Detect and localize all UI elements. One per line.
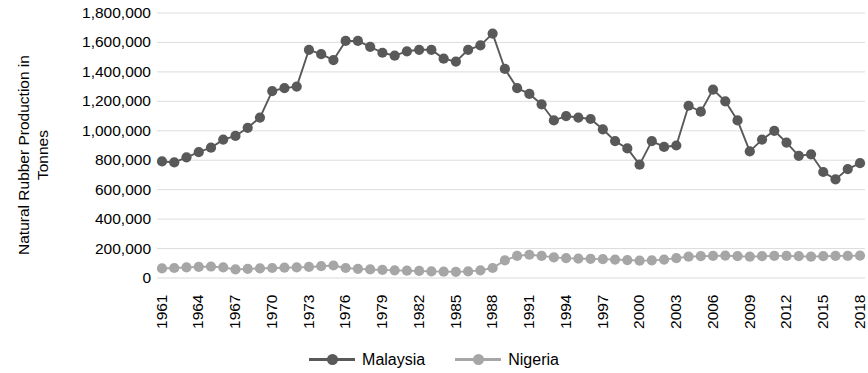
legend-marker-icon (455, 352, 501, 368)
y-axis-tick-label: 200,000 (44, 241, 151, 257)
data-point (243, 264, 253, 274)
data-point (843, 164, 853, 174)
data-point (622, 143, 632, 153)
data-point (169, 263, 179, 273)
legend-dot-icon (327, 354, 338, 365)
data-point (647, 255, 657, 265)
legend-marker-icon (309, 352, 355, 368)
data-point (488, 263, 498, 273)
legend-item-nigeria[interactable]: Nigeria (455, 352, 559, 368)
data-point (634, 160, 644, 170)
data-point (304, 45, 314, 55)
data-point (414, 266, 424, 276)
data-point (500, 64, 510, 74)
y-axis-title-line-1: Natural Rubber Production in (14, 55, 33, 255)
y-axis-tick-label: 1,400,000 (44, 64, 151, 80)
data-point (390, 51, 400, 61)
data-point (512, 251, 522, 261)
data-point (586, 114, 596, 124)
plot-area (157, 13, 865, 278)
data-point (696, 251, 706, 261)
data-point (230, 264, 240, 274)
data-series-layer (157, 13, 865, 278)
data-point (696, 107, 706, 117)
data-point (206, 143, 216, 153)
legend-dot-icon (473, 354, 484, 365)
data-point (659, 142, 669, 152)
data-point (390, 265, 400, 275)
data-point (353, 264, 363, 274)
data-point (781, 137, 791, 147)
rubber-production-line-chart: Natural Rubber Production in Tonnes 1,80… (0, 0, 868, 373)
data-point (341, 263, 351, 273)
data-point (218, 135, 228, 145)
data-point (255, 263, 265, 273)
data-point (426, 45, 436, 55)
data-point (855, 158, 865, 168)
y-axis-tick-label: 400,000 (44, 211, 151, 227)
data-point (634, 256, 644, 266)
data-point (353, 36, 363, 46)
series-malaysia (157, 29, 865, 185)
data-point (267, 263, 277, 273)
data-point (757, 251, 767, 261)
data-point (439, 54, 449, 64)
data-point (365, 42, 375, 52)
data-point (537, 251, 547, 261)
data-point (671, 140, 681, 150)
data-point (377, 265, 387, 275)
data-point (328, 260, 338, 270)
y-axis-tick-labels: 1,800,0001,600,0001,400,0001,200,0001,00… (44, 13, 151, 278)
data-point (732, 115, 742, 125)
data-point (794, 151, 804, 161)
data-point (512, 83, 522, 93)
y-axis-tick-label: 1,200,000 (44, 94, 151, 110)
data-point (267, 86, 277, 96)
data-point (549, 252, 559, 262)
data-point (732, 251, 742, 261)
data-point (451, 267, 461, 277)
data-point (757, 135, 767, 145)
data-point (598, 124, 608, 134)
data-point (586, 254, 596, 264)
data-point (316, 49, 326, 59)
data-point (745, 146, 755, 156)
data-point (500, 255, 510, 265)
data-point (194, 262, 204, 272)
data-point (647, 136, 657, 146)
data-point (806, 252, 816, 262)
data-point (316, 261, 326, 271)
data-point (169, 157, 179, 167)
series-line (162, 255, 860, 272)
data-point (255, 112, 265, 122)
data-point (157, 156, 167, 166)
data-point (218, 262, 228, 272)
data-point (475, 265, 485, 275)
data-point (610, 255, 620, 265)
data-point (181, 262, 191, 272)
data-point (708, 84, 718, 94)
data-point (341, 36, 351, 46)
data-point (708, 251, 718, 261)
data-point (524, 250, 534, 260)
data-point (781, 251, 791, 261)
y-axis-tick-label: 1,000,000 (44, 123, 151, 139)
data-point (194, 147, 204, 157)
data-point (279, 263, 289, 273)
data-point (683, 101, 693, 111)
data-point (475, 40, 485, 50)
data-point (806, 149, 816, 159)
data-point (830, 251, 840, 261)
y-axis-tick-label: 800,000 (44, 152, 151, 168)
data-point (377, 48, 387, 58)
data-point (157, 263, 167, 273)
data-point (243, 123, 253, 133)
data-point (181, 152, 191, 162)
data-point (573, 253, 583, 263)
data-point (720, 251, 730, 261)
data-point (463, 45, 473, 55)
data-point (488, 29, 498, 39)
series-line (162, 34, 860, 180)
data-point (610, 136, 620, 146)
legend-item-malaysia[interactable]: Malaysia (309, 352, 425, 368)
